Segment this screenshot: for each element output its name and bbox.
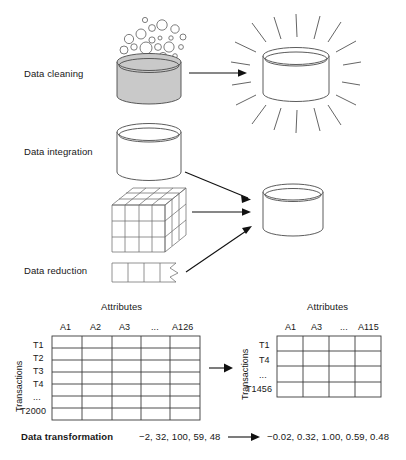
left-col-header: A3: [119, 322, 130, 332]
left-col-header: ...: [151, 322, 159, 332]
stage-label-integration: Data integration: [24, 146, 93, 157]
right-row-header: T1456: [246, 384, 272, 394]
bubble-icon: [149, 37, 155, 43]
bubble-icon: [169, 36, 173, 40]
bubble-icon: [142, 17, 147, 22]
left-table-transactions-label: Transactions: [14, 361, 24, 412]
bubble-icon: [158, 36, 162, 40]
bubble-icon: [149, 25, 156, 32]
right-col-header: A1: [285, 322, 296, 332]
arrow-cube-to-target: [192, 208, 251, 215]
right-col-header: ...: [340, 322, 348, 332]
right-row-header: T1: [259, 340, 270, 350]
left-row-header: T2: [33, 353, 44, 363]
bubble-icon: [179, 45, 184, 50]
left-col-header: A126: [172, 322, 193, 332]
arrow-cleaning: [189, 69, 247, 77]
bubble-icon: [124, 34, 133, 43]
bubble-icon: [155, 44, 162, 51]
stage-label-cleaning: Data cleaning: [24, 68, 83, 79]
bubble-icon: [157, 20, 167, 30]
transformation-after-values: −0.02, 0.32, 1.00, 0.59, 0.48: [267, 431, 389, 442]
shiny-database-cylinder: [231, 14, 361, 133]
bubble-icon: [140, 42, 152, 54]
transformation-label: Data transformation: [21, 431, 113, 442]
left-row-header: T3: [33, 366, 44, 376]
bubble-icon: [120, 46, 128, 54]
target-database-cylinder: [263, 184, 323, 236]
cylinder-top: [117, 124, 181, 141]
left-table-attributes-label: Attributes: [101, 301, 142, 312]
left-row-header: T2000: [20, 406, 46, 416]
left-row-header: T4: [33, 379, 44, 389]
right-col-header: A115: [358, 322, 379, 332]
arrow-tables: [209, 364, 233, 373]
right-row-header: T4: [259, 355, 270, 365]
bubble-icon: [131, 44, 137, 50]
cylinder-top: [263, 48, 329, 65]
bubble-icon: [180, 34, 186, 40]
left-table-grid: [52, 336, 200, 420]
transformation-before-values: −2, 32, 100, 59, 48: [139, 431, 220, 442]
integration-database-cylinder: [117, 124, 181, 181]
data-cube-icon: [112, 188, 186, 252]
right-row-header: ...: [259, 370, 267, 380]
right-col-header: A3: [311, 322, 322, 332]
arrow-transformation: [228, 433, 260, 441]
arrow-reduction-to-target: [186, 226, 252, 272]
cylinder-top: [263, 184, 323, 200]
left-row-header: T1: [33, 340, 44, 350]
bubble-icon: [171, 25, 179, 33]
dirty-database-cylinder-with-bubbles: [117, 17, 186, 104]
torn-data-strip-icon: [112, 263, 178, 282]
left-row-header: ...: [33, 392, 41, 402]
stage-label-reduction: Data reduction: [24, 265, 87, 276]
arrow-integration-to-target: [185, 172, 251, 203]
bubble-icon: [136, 29, 146, 39]
left-col-header: A2: [90, 322, 101, 332]
right-table-grid: [277, 336, 381, 397]
right-table-attributes-label: Attributes: [307, 301, 348, 312]
cylinder-top: [117, 54, 181, 71]
left-col-header: A1: [60, 322, 71, 332]
bubble-icon: [164, 42, 174, 52]
